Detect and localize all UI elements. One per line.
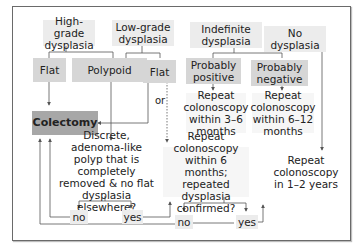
- box-low-grade-dysplasia: Low-grade dysplasia: [112, 20, 174, 46]
- box-lg-flat: Flat: [143, 60, 176, 83]
- box-indefinite-dysplasia: Indefinite dysplasia: [190, 22, 262, 48]
- answer-polyp-yes: yes: [122, 210, 143, 224]
- answer-repeat-no: no: [175, 215, 193, 229]
- box-high-grade-dysplasia: High-grade dysplasia: [43, 20, 95, 46]
- box-hg-flat: Flat: [33, 58, 66, 82]
- question-polyp-removed: Discrete, adenoma-like polyp that is com…: [55, 145, 158, 197]
- answer-repeat-yes: yes: [236, 215, 258, 229]
- box-probably-negative: Probably negative: [251, 60, 308, 86]
- box-repeat-3-6-months: Repeat colonoscopy within 3–6 months: [186, 93, 246, 133]
- box-polypoid: Polypoid: [72, 58, 147, 82]
- box-probably-positive: Probably positive: [186, 58, 241, 84]
- label-or: or: [155, 95, 165, 106]
- question-repeat-dysplasia-confirmed: Repeat colonoscopy within 6 months; repe…: [163, 147, 249, 197]
- box-repeat-1-2-years: Repeat colonoscopy in 1–2 years: [270, 152, 342, 192]
- box-no-dysplasia: No dysplasia: [264, 26, 326, 52]
- box-repeat-6-12-months: Repeat colonoscopy within 6–12 months: [252, 93, 314, 133]
- answer-polyp-no: no: [70, 210, 88, 224]
